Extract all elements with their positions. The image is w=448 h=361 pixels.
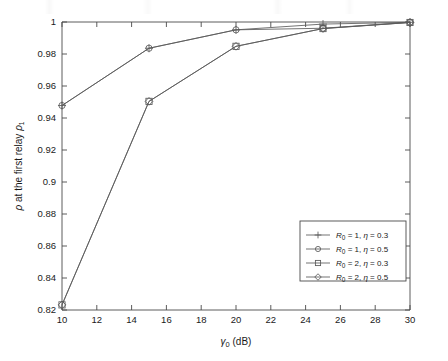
x-tick-label: 30	[405, 314, 416, 325]
x-axis-label: γ0 (dB)	[221, 336, 252, 349]
y-tick-label: 0.86	[38, 240, 57, 251]
svg-text:ρ at the first relay ρ1: ρ at the first relay ρ1	[13, 121, 25, 211]
y-tick-label: 0.94	[38, 112, 57, 123]
y-tick-label: 0.96	[38, 80, 57, 91]
svg-text:γ0 (dB): γ0 (dB)	[221, 336, 252, 349]
x-tick-label: 10	[57, 314, 68, 325]
figure-container: 0.820.840.860.880.90.920.940.960.981 101…	[0, 0, 448, 361]
chart-legend[interactable]: R0 = 1, η = 0.3R0 = 1, η = 0.5R0 = 2, η …	[300, 221, 406, 283]
y-tick-label: 0.9	[43, 176, 56, 187]
x-tick-label: 22	[266, 314, 277, 325]
x-tick-label: 14	[126, 314, 137, 325]
x-tick-label: 24	[300, 314, 311, 325]
x-tick-label: 18	[196, 314, 207, 325]
x-axis-tick-labels: 1012141618202224262830	[57, 314, 416, 325]
y-tick-label: 1	[51, 16, 56, 27]
x-tick-label: 16	[161, 314, 172, 325]
x-tick-label: 12	[92, 314, 103, 325]
y-axis-tick-labels: 0.820.840.860.880.90.920.940.960.981	[38, 16, 57, 315]
line-chart: 0.820.840.860.880.90.920.940.960.981 101…	[0, 0, 448, 361]
x-tick-label: 28	[370, 314, 381, 325]
y-tick-label: 0.88	[38, 208, 57, 219]
y-tick-label: 0.98	[38, 48, 57, 59]
x-tick-label: 20	[231, 314, 242, 325]
series-1	[59, 19, 413, 108]
x-tick-label: 26	[335, 314, 346, 325]
y-tick-label: 0.82	[38, 304, 57, 315]
y-axis-label: ρ at the first relay ρ1	[13, 121, 25, 211]
y-tick-label: 0.92	[38, 144, 57, 155]
y-tick-label: 0.84	[38, 272, 57, 283]
series-0	[58, 18, 414, 109]
